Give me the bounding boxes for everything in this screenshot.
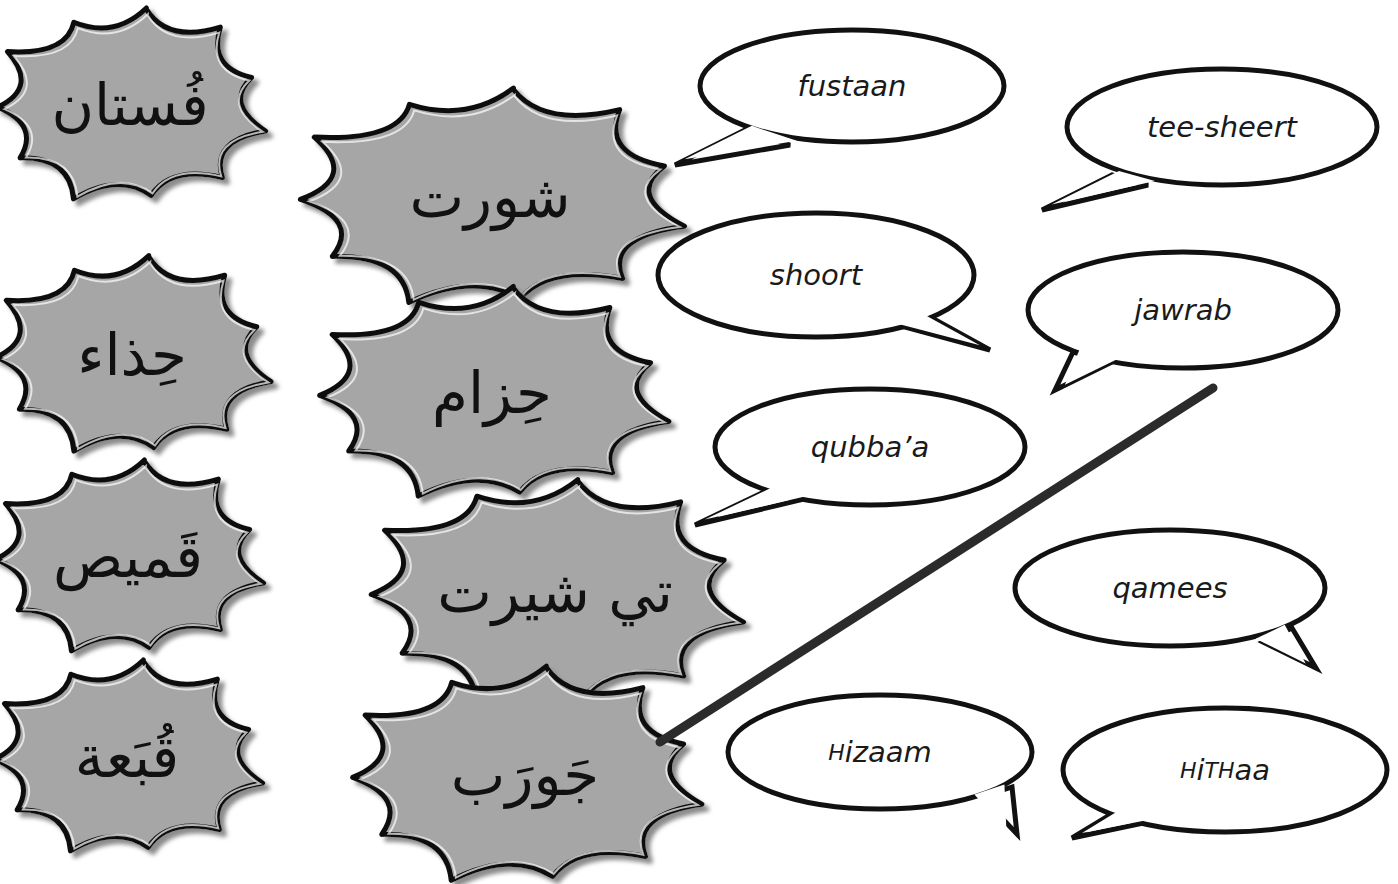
transliteration-bubble[interactable]: fustaan [675,30,1004,165]
transliteration-bubbles-layer: fustaantee-sheertshoortjawrabqubba’aqame… [658,30,1387,838]
transliteration-label: HiTHaa [1180,753,1270,787]
transliteration-bubble[interactable]: jawrab [1028,252,1338,390]
arabic-word-card[interactable]: جَورَب [353,666,702,880]
arabic-word-label: حِزام [432,359,552,428]
transliteration-bubble[interactable]: shoort [658,213,990,350]
transliteration-bubble[interactable]: HiTHaa [1063,708,1387,838]
transliteration-label: shoort [770,258,864,292]
transliteration-label: qamees [1112,571,1227,605]
arabic-word-label: جَورَب [451,741,599,810]
transliteration-label: qubba’a [811,430,929,464]
arabic-word-card[interactable]: قَميص [0,460,264,651]
transliteration-bubble[interactable]: tee-sheert [1042,69,1377,210]
transliteration-bubble[interactable]: qamees [1015,530,1325,668]
arabic-word-label: شورت [409,163,570,232]
arabic-word-card[interactable]: قُبَعة [0,660,263,851]
arabic-words-layer: فُستانشورتحِذاءحِزامقَميصتي شيرتقُبَعةجَ… [0,8,744,880]
transliteration-label: Hizaam [828,735,932,769]
arabic-word-label: قُبَعة [75,722,179,791]
arabic-word-label: حِذاء [77,321,187,389]
transliteration-label: fustaan [798,69,907,103]
arabic-word-label: قَميص [53,523,203,592]
transliteration-bubble[interactable]: Hizaam [728,695,1032,834]
arabic-word-label: تي شيرت [437,558,673,627]
transliteration-label: tee-sheert [1147,110,1299,144]
arabic-word-card[interactable]: حِذاء [0,256,271,452]
arabic-word-label: فُستان [51,70,208,139]
matching-exercise-canvas: فُستانشورتحِذاءحِزامقَميصتي شيرتقُبَعةجَ… [0,0,1398,884]
transliteration-bubble[interactable]: qubba’a [695,389,1025,525]
arabic-word-card[interactable]: تي شيرت [371,480,743,701]
arabic-word-card[interactable]: فُستان [0,8,266,199]
transliteration-label: jawrab [1130,293,1232,327]
arabic-word-card[interactable]: حِزام [320,287,669,497]
arabic-word-card[interactable]: شورت [300,88,684,302]
